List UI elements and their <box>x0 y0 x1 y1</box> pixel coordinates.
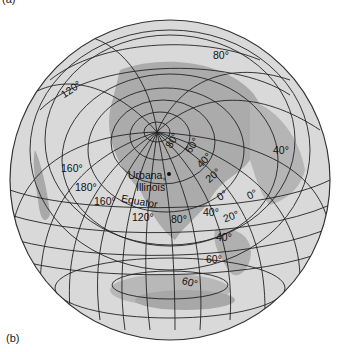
label-lon-160-left: 160° <box>61 163 83 174</box>
label-lat-s60: 60° <box>206 254 222 265</box>
label-lon-160-eq: 160° <box>94 196 116 207</box>
label-lon-180: 180° <box>75 182 97 193</box>
label-lon-80-eq: 80° <box>171 214 187 225</box>
location-marker <box>167 172 171 176</box>
location-label-line2: Illinois <box>136 182 165 193</box>
label-lon-120-eq: 120° <box>132 212 154 223</box>
label-lon-40-eq: 40° <box>203 207 219 218</box>
location-label-line1: Urbana, <box>128 170 165 181</box>
label-lon-40-right: 40° <box>273 145 289 156</box>
azimuthal-globe-map <box>0 0 340 352</box>
label-lon-80-top: 80° <box>213 50 229 61</box>
panel-label-b: (b) <box>6 332 19 344</box>
label-lat-s40: 40° <box>216 232 232 243</box>
